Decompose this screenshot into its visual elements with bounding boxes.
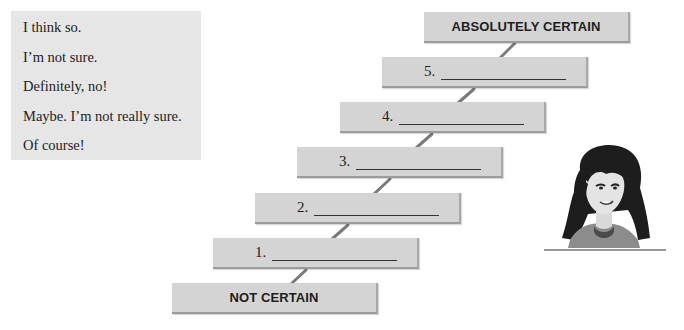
absolutely-certain-box: ABSOLUTELY CERTAIN bbox=[424, 12, 630, 43]
step-3-answer-blank[interactable] bbox=[356, 169, 481, 170]
step-4: 4. bbox=[340, 102, 546, 133]
step-2-number: 2. bbox=[297, 199, 308, 216]
step-2-answer-blank[interactable] bbox=[314, 215, 439, 216]
step-4-answer-blank[interactable] bbox=[399, 124, 524, 125]
step-1: 1. bbox=[213, 238, 419, 269]
step-2: 2. bbox=[255, 193, 461, 224]
step-4-number: 4. bbox=[382, 108, 393, 125]
absolutely-certain-label: ABSOLUTELY CERTAIN bbox=[424, 19, 628, 34]
step-5: 5. bbox=[382, 57, 588, 88]
girl-illustration bbox=[540, 140, 670, 252]
step-5-answer-blank[interactable] bbox=[441, 79, 566, 80]
step-3-number: 3. bbox=[339, 153, 350, 170]
not-certain-label: NOT CERTAIN bbox=[172, 290, 376, 305]
not-certain-box: NOT CERTAIN bbox=[172, 283, 378, 314]
step-1-answer-blank[interactable] bbox=[272, 260, 397, 261]
step-3: 3. bbox=[297, 147, 503, 178]
step-5-number: 5. bbox=[424, 63, 435, 80]
step-1-number: 1. bbox=[255, 244, 266, 261]
